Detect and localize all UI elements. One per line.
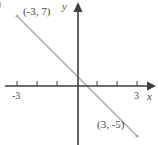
point-b-label: (3, -5) — [97, 119, 125, 130]
point-marker-b — [135, 134, 138, 137]
point-a-label: (-3, 7) — [23, 6, 51, 17]
x-axis-label: x — [147, 91, 152, 102]
x-tick-label-neg3: -3 — [12, 91, 20, 101]
coordinate-plane-figure: (-3, 7) (3, -5) -3 3 x y ) — [0, 0, 158, 145]
y-axis-arrowhead — [74, 2, 83, 12]
x-tick-label-3: 3 — [134, 91, 139, 101]
point-marker-a — [15, 14, 18, 17]
plot-canvas — [0, 0, 158, 145]
cropped-label-fragment: ) — [0, 0, 1, 10]
y-axis-label: y — [62, 1, 67, 12]
